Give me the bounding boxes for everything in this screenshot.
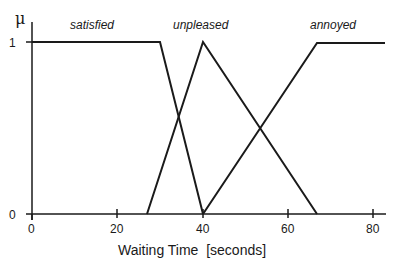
x-axis-title: Waiting Time [seconds] <box>118 242 266 258</box>
series-satisfied <box>32 42 203 214</box>
series-label-unpleased: unpleased <box>173 18 229 32</box>
series-unpleased <box>147 42 317 214</box>
x-tick-label-80: 80 <box>366 222 380 236</box>
x-tick-label-40: 40 <box>196 222 210 236</box>
x-tick-label-0: 0 <box>28 222 35 236</box>
x-tick-label-60: 60 <box>281 222 295 236</box>
y-axis-label: μ <box>15 9 25 28</box>
series-label-annoyed: annoyed <box>310 18 356 32</box>
series-annoyed <box>203 43 385 214</box>
membership-function-chart: μ 1 0 0 20 40 60 80 Waiting Time [second… <box>0 0 394 270</box>
y-tick-label-1: 1 <box>9 36 16 50</box>
y-tick-label-0: 0 <box>9 208 16 222</box>
x-tick-label-20: 20 <box>110 222 124 236</box>
series-label-satisfied: satisfied <box>70 18 114 32</box>
